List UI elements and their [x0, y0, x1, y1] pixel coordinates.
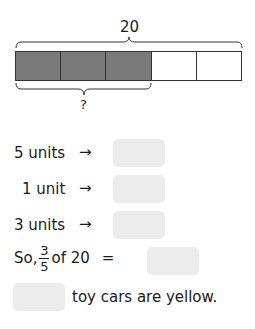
row-label-1-unit: 1 unit [22, 180, 65, 198]
arrow-icon: → [79, 179, 92, 197]
equals-sign: = [102, 249, 115, 267]
row-label-3-units: 3 units [14, 216, 65, 234]
answer-box-fraction[interactable] [147, 247, 199, 275]
bar-unit-shaded [106, 52, 151, 80]
answer-box-1-unit[interactable] [113, 175, 165, 203]
answer-box-3-units[interactable] [113, 211, 165, 239]
bar-model [15, 51, 242, 81]
arrow-icon: → [79, 143, 92, 161]
bar-unit [152, 52, 197, 80]
total-label: 20 [120, 18, 139, 36]
bar-unit-shaded [16, 52, 61, 80]
bar-unit [197, 52, 241, 80]
fraction: 3 5 [39, 244, 49, 273]
answer-box-5-units[interactable] [113, 139, 165, 167]
arrow-icon: → [79, 215, 92, 233]
bar-unit-shaded [61, 52, 106, 80]
top-brace-icon [15, 36, 243, 50]
conclusion-suffix: of 20 [51, 249, 89, 267]
final-sentence: toy cars are yellow. [72, 288, 217, 306]
answer-box-yellow-cars[interactable] [13, 283, 65, 311]
row-label-5-units: 5 units [14, 144, 65, 162]
fraction-numerator: 3 [40, 244, 48, 257]
conclusion-prefix: So, [14, 249, 37, 267]
conclusion-line: So, 3 5 of 20 = [14, 245, 114, 271]
bottom-brace-icon [15, 82, 153, 96]
fraction-denominator: 5 [40, 260, 48, 273]
unknown-label: ? [80, 96, 87, 114]
